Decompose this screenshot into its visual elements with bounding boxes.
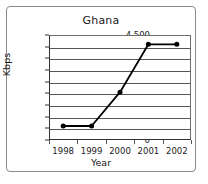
x-axis-tick-mark — [134, 140, 135, 144]
x-axis-tick-mark — [106, 140, 107, 144]
y-axis-label: Kbps — [1, 53, 12, 76]
gridline — [50, 59, 190, 60]
x-axis-label: Year — [7, 157, 195, 168]
chart-figure: Ghana Kbps 05001,0001,5002,0002,5003,000… — [6, 6, 196, 172]
gridline — [50, 83, 190, 84]
x-axis-tick-label: 2002 — [157, 146, 197, 156]
gridline — [50, 71, 190, 72]
gridline — [50, 94, 190, 95]
x-axis-tick-mark — [191, 140, 192, 144]
plot-area — [49, 35, 191, 140]
gridline — [50, 48, 190, 49]
gridline — [50, 129, 190, 130]
gridline — [50, 118, 190, 119]
x-axis-tick-mark — [77, 140, 78, 144]
gridline — [50, 106, 190, 107]
x-axis-tick-mark — [163, 140, 164, 144]
chart-title: Ghana — [7, 14, 195, 27]
x-axis-tick-mark — [49, 140, 50, 144]
